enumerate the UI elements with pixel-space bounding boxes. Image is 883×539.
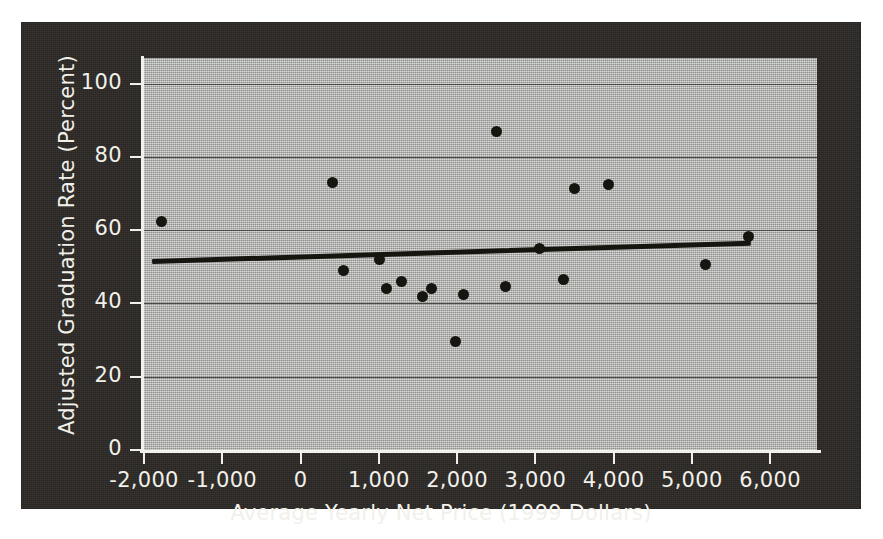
data-point [417,291,428,302]
y-tick-label-20: 20 [58,363,122,387]
gridline-y-20 [144,377,817,378]
scatter-plot-figure: Adjusted Graduation Rate (Percent) Avera… [0,0,883,539]
x-tick-3000 [534,452,536,464]
data-point [327,177,338,188]
data-point [534,243,545,254]
x-tick-6000 [769,452,771,464]
y-tick-label-60: 60 [58,216,122,240]
plot-area [144,58,817,450]
x-tick-label-6000: 6,000 [715,468,825,492]
y-tick-label-40: 40 [58,289,122,313]
gridline-y-100 [144,84,817,85]
data-point [458,289,469,300]
x-axis-spine [140,450,821,453]
y-tick-40 [130,302,142,304]
data-point [426,283,437,294]
y-tick-60 [130,229,142,231]
data-point [700,259,711,270]
data-point [558,274,569,285]
data-point [569,183,580,194]
data-point [374,254,385,265]
x-tick--2000 [143,452,145,464]
x-tick-4000 [613,452,615,464]
y-tick-label-0: 0 [58,436,122,460]
data-point [450,336,461,347]
gridline-y-60 [144,230,817,231]
y-tick-label-100: 100 [58,70,122,94]
y-tick-80 [130,156,142,158]
data-point [396,276,407,287]
x-tick--1000 [221,452,223,464]
figure-plate: Adjusted Graduation Rate (Percent) Avera… [22,23,860,508]
gridline-y-80 [144,157,817,158]
x-tick-5000 [691,452,693,464]
x-tick-0 [300,452,302,464]
data-point [500,281,511,292]
data-point [338,265,349,276]
y-tick-label-80: 80 [58,143,122,167]
x-axis-label: Average Yearly Net Price (1999 Dollars) [22,501,860,525]
x-tick-1000 [378,452,380,464]
y-axis-spine [141,56,144,452]
y-tick-0 [130,449,142,451]
x-tick-2000 [456,452,458,464]
y-tick-20 [130,376,142,378]
data-point [156,216,167,227]
y-tick-100 [130,83,142,85]
trend-line [152,240,751,263]
data-point [491,126,502,137]
gridline-y-40 [144,303,817,304]
data-point [381,283,392,294]
data-point [743,231,754,242]
data-point [603,179,614,190]
